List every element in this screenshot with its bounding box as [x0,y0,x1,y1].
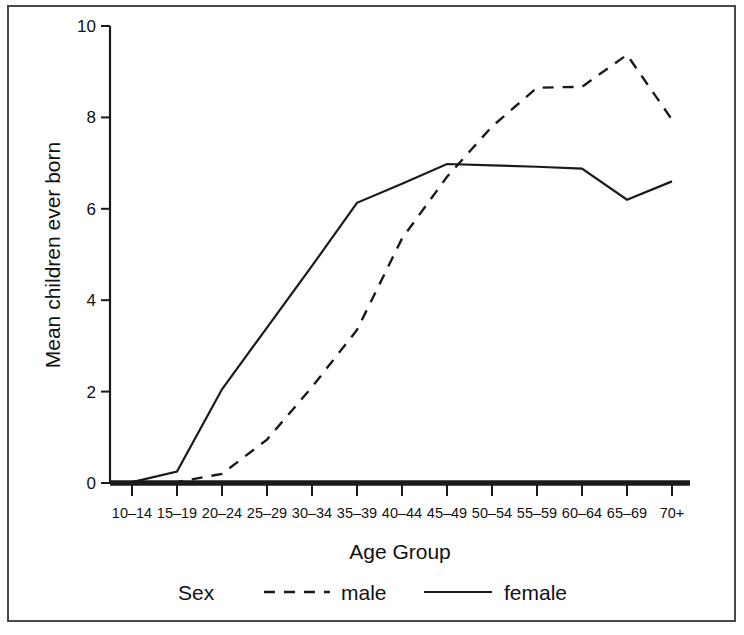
x-tick-label: 60–64 [562,505,602,521]
x-tick-label: 25–29 [247,505,287,521]
y-tick-label: 10 [77,17,96,36]
x-tick-label: 70+ [660,505,685,521]
y-axis-title: Mean children ever born [41,142,64,368]
legend-label-male: male [341,581,387,604]
y-tick-label: 0 [87,474,96,493]
y-tick-labels: 0246810 [77,17,96,493]
x-tick-label: 65–69 [607,505,647,521]
series-line-male [132,55,672,483]
x-tick-labels: 10–1415–1920–2425–2930–3435–3940–4445–49… [112,505,684,521]
y-tick-label: 8 [87,108,96,127]
chart-canvas: 0246810 Mean children ever born 10–1415–… [0,0,744,635]
y-tick-marks [101,26,110,483]
y-tick-label: 6 [87,200,96,219]
data-series-group [132,55,672,483]
x-tick-marks [132,484,672,496]
legend-label-female: female [504,581,567,604]
x-tick-label: 30–34 [292,505,332,521]
y-tick-label: 2 [87,383,96,402]
legend: Sex male female [178,581,567,604]
series-line-female [132,164,672,482]
x-tick-label: 35–39 [337,505,377,521]
legend-title: Sex [178,581,215,604]
x-tick-label: 55–59 [517,505,557,521]
x-axis: 10–1415–1920–2425–2930–3435–3940–4445–49… [110,483,690,563]
x-tick-label: 10–14 [112,505,152,521]
x-tick-label: 40–44 [382,505,422,521]
x-axis-title: Age Group [349,540,451,563]
y-tick-label: 4 [87,291,96,310]
x-tick-label: 45–49 [427,505,467,521]
y-axis: 0246810 Mean children ever born [41,17,110,493]
x-tick-label: 15–19 [157,505,197,521]
x-tick-label: 20–24 [202,505,242,521]
chart-figure: 0246810 Mean children ever born 10–1415–… [0,0,744,635]
x-tick-label: 50–54 [472,505,512,521]
